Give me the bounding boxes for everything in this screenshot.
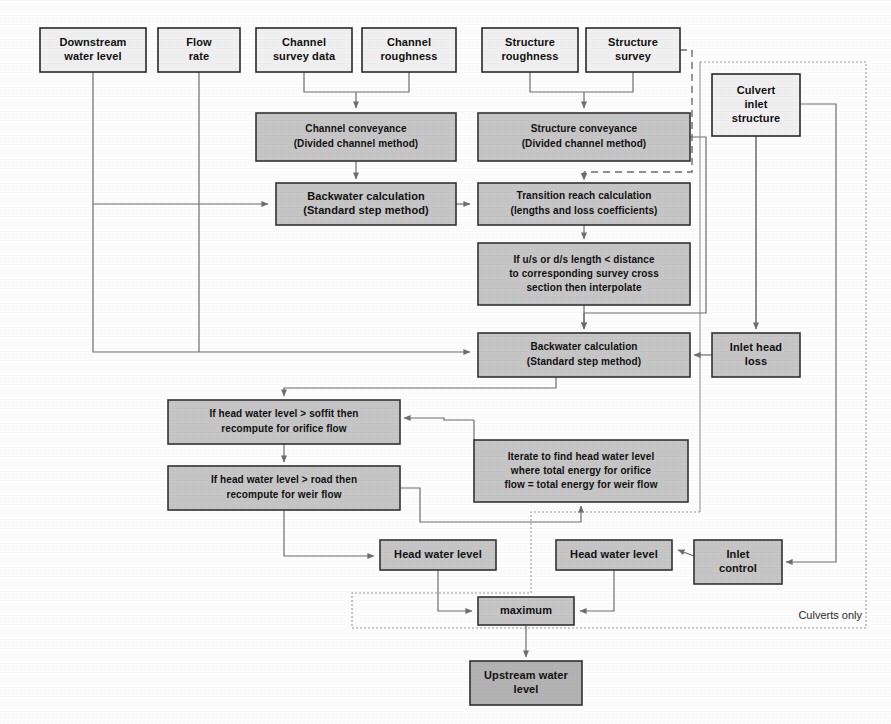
node-downstream-water-level[interactable]: Downstreamwater level bbox=[40, 28, 146, 72]
node-label: flow = total energy for weir flow bbox=[504, 479, 657, 490]
node-layer: Downstreamwater levelFlowrateChannelsurv… bbox=[40, 28, 800, 705]
node-label: (Divided channel method) bbox=[522, 138, 647, 149]
node-label: roughness bbox=[380, 50, 437, 62]
node-label: Inlet head bbox=[730, 341, 782, 353]
edge-weir-to-head-water-left bbox=[284, 510, 374, 556]
node-label: (Standard step method) bbox=[527, 356, 641, 367]
node-label: If head water level > soffit then bbox=[209, 408, 358, 419]
node-interpolate-check[interactable]: If u/s or d/s length < distanceto corres… bbox=[478, 243, 690, 305]
node-label: level bbox=[514, 683, 539, 695]
node-culvert-inlet-structure[interactable]: Culvertinletstructure bbox=[712, 74, 800, 136]
node-backwater-calculation-us[interactable]: Backwater calculation(Standard step meth… bbox=[478, 333, 690, 377]
node-structure-roughness[interactable]: Structureroughness bbox=[482, 28, 578, 72]
edge-inlet-control-to-head-water-right bbox=[678, 550, 694, 556]
node-backwater-calculation-ds[interactable]: Backwater calculation(Standard step meth… bbox=[276, 183, 456, 225]
node-channel-conveyance[interactable]: Channel conveyance(Divided channel metho… bbox=[256, 113, 456, 161]
node-label: recompute for orifice flow bbox=[221, 423, 347, 434]
node-label: (lengths and loss coefficients) bbox=[510, 205, 657, 216]
node-inlet-head-loss[interactable]: Inlet headloss bbox=[712, 333, 800, 377]
node-label: Upstream water bbox=[484, 669, 569, 681]
node-label: Head water level bbox=[570, 548, 658, 560]
node-orifice-flow-check[interactable]: If head water level > soffit thenrecompu… bbox=[168, 400, 400, 444]
node-head-water-level-left[interactable]: Head water level bbox=[380, 540, 496, 570]
node-label: maximum bbox=[500, 604, 552, 616]
node-label: loss bbox=[745, 355, 767, 367]
flowchart-svg: Culverts only bbox=[0, 0, 891, 724]
node-channel-survey-data[interactable]: Channelsurvey data bbox=[256, 28, 352, 72]
node-label: Structure bbox=[608, 36, 658, 48]
node-label: rate bbox=[189, 50, 210, 62]
node-transition-reach-calculation[interactable]: Transition reach calculation(lengths and… bbox=[478, 183, 690, 225]
node-label: Head water level bbox=[394, 548, 482, 560]
edge-structure-roughness-to-conveyance bbox=[530, 72, 584, 92]
node-maximum[interactable]: maximum bbox=[478, 597, 574, 625]
node-label: water level bbox=[63, 50, 121, 62]
node-structure-conveyance[interactable]: Structure conveyance(Divided channel met… bbox=[478, 113, 690, 161]
node-label: Channel bbox=[282, 36, 326, 48]
node-label: inlet bbox=[744, 98, 767, 110]
culverts-only-label: Culverts only bbox=[798, 609, 862, 621]
node-label: Structure conveyance bbox=[531, 123, 638, 134]
node-label: If head water level > road then bbox=[211, 474, 357, 485]
node-head-water-level-right[interactable]: Head water level bbox=[556, 540, 672, 570]
node-label: structure bbox=[732, 112, 781, 124]
node-label: to corresponding survey cross bbox=[509, 268, 659, 279]
node-label: Transition reach calculation bbox=[516, 190, 651, 201]
edge-channel-survey-to-conveyance bbox=[304, 72, 356, 92]
node-label: (Divided channel method) bbox=[294, 138, 419, 149]
node-label: survey data bbox=[273, 50, 336, 62]
node-label: Backwater calculation bbox=[530, 341, 637, 352]
edge-head-water-right-to-maximum bbox=[580, 570, 614, 611]
node-label: Channel bbox=[387, 36, 431, 48]
node-label: Inlet bbox=[726, 548, 749, 560]
node-label: Flow bbox=[186, 36, 212, 48]
node-label: control bbox=[719, 562, 757, 574]
node-label: recompute for weir flow bbox=[226, 489, 341, 500]
node-inlet-control[interactable]: Inletcontrol bbox=[694, 540, 782, 584]
node-label: survey bbox=[615, 50, 652, 62]
node-flow-rate[interactable]: Flowrate bbox=[158, 28, 240, 72]
node-structure-survey[interactable]: Structuresurvey bbox=[586, 28, 680, 72]
edge-structure-survey-to-conveyance bbox=[584, 72, 633, 92]
edge-backwater-us-to-orifice bbox=[284, 377, 556, 396]
node-label: roughness bbox=[501, 50, 558, 62]
node-label: section then interpolate bbox=[526, 282, 642, 293]
edge-channel-roughness-to-conveyance bbox=[356, 72, 409, 92]
node-channel-roughness[interactable]: Channelroughness bbox=[362, 28, 456, 72]
node-iterate-energy[interactable]: Iterate to find head water levelwhere to… bbox=[474, 440, 688, 502]
node-label: If u/s or d/s length < distance bbox=[513, 254, 655, 265]
node-label: Culvert bbox=[737, 84, 776, 96]
node-label: Backwater calculation bbox=[307, 190, 425, 202]
edge-head-water-left-to-maximum bbox=[438, 570, 472, 611]
flowchart-canvas: Culverts only bbox=[0, 0, 891, 724]
node-label: Iterate to find head water level bbox=[508, 451, 655, 462]
edge-iterate-to-orifice bbox=[404, 418, 474, 420]
node-label: (Standard step method) bbox=[303, 204, 429, 216]
node-label: Structure bbox=[505, 36, 555, 48]
node-label: Downstream bbox=[59, 36, 126, 48]
node-upstream-water-level[interactable]: Upstream waterlevel bbox=[470, 661, 582, 705]
node-label: Channel conveyance bbox=[305, 123, 407, 134]
node-weir-flow-check[interactable]: If head water level > road thenrecompute… bbox=[168, 466, 400, 510]
node-label: where total energy for orifice bbox=[510, 465, 652, 476]
